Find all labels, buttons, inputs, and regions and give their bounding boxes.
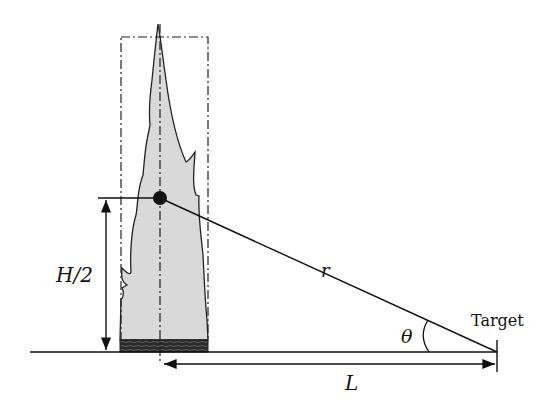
radius-label: r (321, 260, 331, 281)
half-height-label: H/2 (55, 263, 93, 287)
distance-label: L (344, 371, 358, 395)
angle-arc (423, 320, 429, 352)
fuel-bed (120, 340, 208, 352)
angle-label: θ (401, 325, 413, 347)
flame (120, 24, 208, 340)
point-source-dot (153, 191, 167, 205)
flame-radiation-diagram: H/2 r θ Target L (0, 0, 555, 411)
target-label: Target (471, 311, 524, 330)
